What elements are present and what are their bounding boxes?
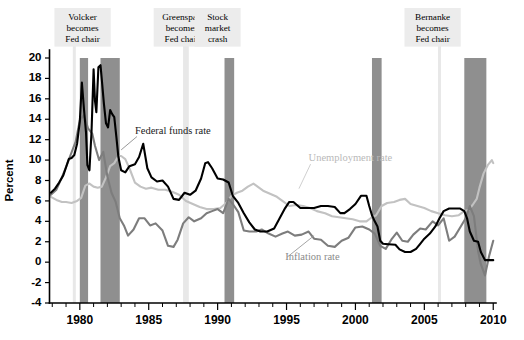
y-axis-tick-label: 18 bbox=[29, 71, 42, 83]
recession-band bbox=[372, 58, 382, 303]
series-label-unemployment-rate: Unemployment rate bbox=[309, 152, 393, 163]
chart-figure: 20181614121086420-2-41980198519901995200… bbox=[0, 0, 524, 340]
series-annotations-group: Federal funds rateUnemployment rateInfla… bbox=[121, 125, 392, 263]
x-axis-tick-label: 1985 bbox=[135, 313, 162, 327]
event-callout-text: Fed chair bbox=[65, 34, 99, 44]
recession-bands-group bbox=[80, 58, 487, 303]
x-axis-tick-label: 2005 bbox=[411, 313, 438, 327]
x-axis-tick-label: 1980 bbox=[66, 313, 93, 327]
event-callout-text: crash bbox=[208, 34, 228, 44]
event-callout-text: becomes bbox=[417, 23, 450, 33]
axes-group: 20181614121086420-2-41980198519901995200… bbox=[3, 50, 507, 327]
y-axis-title: Percent bbox=[3, 159, 15, 201]
annotation-leader-line bbox=[299, 164, 311, 189]
event-callout-text: Stock bbox=[207, 12, 228, 22]
y-axis-tick-label: 4 bbox=[35, 214, 42, 226]
annotation-leader-line bbox=[121, 137, 137, 150]
y-axis-tick-label: 2 bbox=[35, 235, 41, 247]
y-axis-tick-label: -2 bbox=[31, 276, 41, 288]
y-axis-tick-label: 0 bbox=[35, 255, 41, 267]
event-callout-text: market bbox=[205, 23, 231, 33]
event-callout-text: Fed chair bbox=[415, 34, 449, 44]
event-callout-text: becomes bbox=[166, 23, 199, 33]
event-callout-text: Bernanke bbox=[415, 12, 450, 22]
economic-indicators-chart: 20181614121086420-2-41980198519901995200… bbox=[0, 0, 524, 340]
x-axis-tick-label: 2000 bbox=[342, 313, 369, 327]
event-callouts-group: VolckerbecomesFed chairGreenspanbecomesF… bbox=[54, 8, 460, 47]
y-axis-tick-label: 20 bbox=[29, 51, 42, 63]
event-callout-text: Fed chair bbox=[165, 34, 199, 44]
y-axis-tick-label: 12 bbox=[29, 133, 42, 145]
x-axis-tick-label: 1990 bbox=[204, 313, 231, 327]
y-axis-tick-label: 16 bbox=[29, 92, 42, 104]
event-callout-text: becomes bbox=[66, 23, 99, 33]
y-axis-tick-label: 8 bbox=[35, 174, 42, 186]
y-axis-tick-label: 6 bbox=[35, 194, 41, 206]
event-callout-text: Volcker bbox=[68, 12, 96, 22]
x-axis-tick-label: 1995 bbox=[273, 313, 300, 327]
series-label-federal-funds-rate: Federal funds rate bbox=[135, 125, 211, 136]
recession-band bbox=[464, 58, 486, 303]
y-axis-tick-label: 10 bbox=[29, 153, 42, 165]
series-label-inflation-rate: Inflation rate bbox=[285, 251, 340, 262]
y-axis-tick-label: 14 bbox=[29, 112, 42, 124]
y-axis-tick-label: -4 bbox=[31, 296, 42, 308]
x-axis-tick-label: 2010 bbox=[480, 313, 507, 327]
